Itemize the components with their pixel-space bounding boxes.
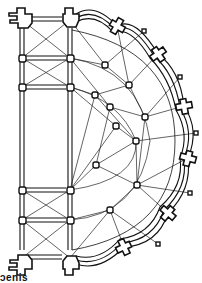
walls	[20, 10, 193, 266]
floor-plan-drawing	[0, 0, 202, 283]
caption-label: ɔenis	[0, 272, 28, 283]
